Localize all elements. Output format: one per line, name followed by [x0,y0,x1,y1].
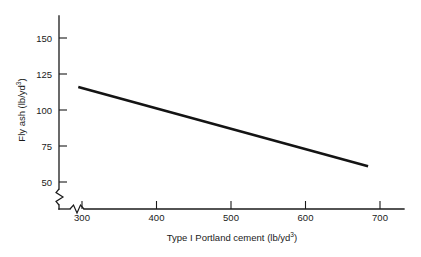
y-axis-title: Fly ash (lb/yd3) [15,78,27,141]
y-axis-break-icon [56,189,63,205]
x-tick-label-300: 300 [74,212,90,223]
x-axis-title: Type I Portland cement (lb/yd3) [167,231,297,243]
x-tick-label-600: 600 [298,212,314,223]
y-axis-title-base: Fly ash (lb/yd [16,85,27,142]
y-tick-label-75: 75 [41,141,52,152]
y-tick-label-50: 50 [41,177,52,188]
chart-canvas: 150 125 100 75 50 300 400 500 600 700 Ty… [0,0,421,257]
x-axis-title-tail: ) [294,232,297,243]
y-tick-label-125: 125 [36,69,52,80]
x-tick-label-700: 700 [372,212,388,223]
x-axis-title-base: Type I Portland cement (lb/yd [167,232,291,243]
y-tick-label-100: 100 [36,105,52,116]
x-tick-label-500: 500 [223,212,239,223]
x-tick-label-400: 400 [149,212,165,223]
y-tick-label-150: 150 [36,33,52,44]
y-axis-title-tail: ) [16,78,27,81]
chart-container: 150 125 100 75 50 300 400 500 600 700 Ty… [0,0,421,257]
data-series-line [78,87,368,166]
